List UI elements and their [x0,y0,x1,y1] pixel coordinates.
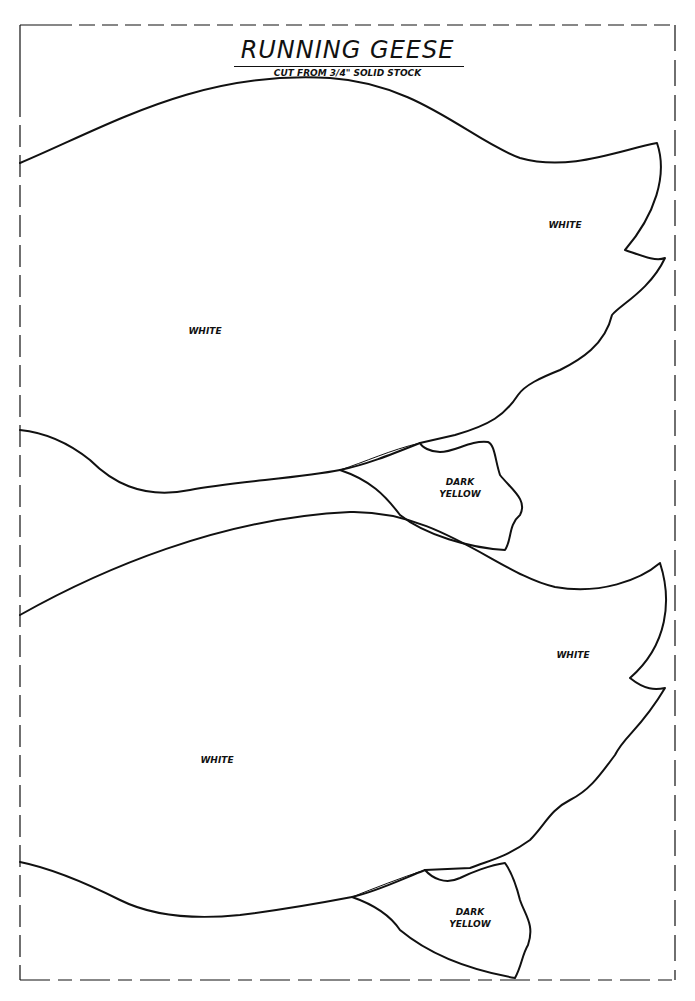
goose-upper-feet-label: DARK YELLOW [420,476,500,500]
title-underline [234,66,464,67]
goose-lower [20,512,666,978]
goose-lower-body-label: WHITE [182,754,252,766]
goose-upper-feet-label-line1: DARK [420,476,500,488]
goose-lower-feet-label: DARK YELLOW [430,906,510,930]
goose-lower-feet-label-line2: YELLOW [430,918,510,930]
pattern-title: RUNNING GEESE [0,36,695,64]
goose-upper-body-label: WHITE [170,325,240,337]
goose-upper-body-outline [20,77,665,492]
goose-upper-wing-label: WHITE [530,219,600,231]
goose-upper-feet-label-line2: YELLOW [420,488,500,500]
goose-lower-wing-label: WHITE [538,649,608,661]
pattern-sheet: RUNNING GEESE CUT FROM 3/4" SOLID STOCK … [0,0,695,1001]
pattern-drawing [0,0,695,1001]
pattern-subtitle: CUT FROM 3/4" SOLID STOCK [0,68,695,78]
goose-upper [20,77,665,550]
goose-lower-body-outline [20,512,666,917]
goose-lower-feet-label-line1: DARK [430,906,510,918]
cut-border [20,25,675,980]
